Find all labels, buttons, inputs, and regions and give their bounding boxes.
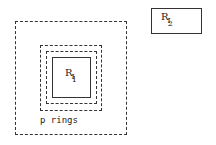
region-i2-box: RI2 (151, 8, 202, 34)
region-i1-label: RI1 (65, 68, 81, 78)
region-i1-box: RI1 (52, 57, 91, 98)
p-rings-label: p rings (40, 116, 78, 125)
region-i2-label: RI2 (161, 12, 177, 22)
